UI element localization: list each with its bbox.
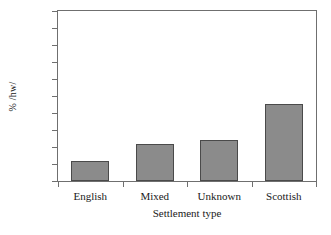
x-axis-title: Settlement type <box>57 207 317 219</box>
bar-scottish <box>265 104 303 181</box>
bar-slot <box>123 11 188 181</box>
x-tick-mark <box>252 182 253 187</box>
x-axis-label: Scottish <box>266 190 301 202</box>
x-tick-mark <box>316 182 317 187</box>
bar-slot <box>58 11 123 181</box>
bar-mixed <box>136 144 174 181</box>
bars-group <box>58 11 316 181</box>
x-axis-labels: EnglishMixedUnknownScottish <box>58 190 316 206</box>
bar-english <box>71 161 109 181</box>
bar-slot <box>187 11 252 181</box>
x-axis-label: Mixed <box>140 190 169 202</box>
x-tick-mark <box>123 182 124 187</box>
y-axis-title-text: % /hw/ <box>8 81 19 111</box>
x-tick-mark <box>187 182 188 187</box>
bar-slot <box>252 11 317 181</box>
bar-chart: % /hw/ 0102030405060708090100 EnglishMix… <box>0 0 331 235</box>
x-axis-label: Unknown <box>198 190 241 202</box>
x-tick-mark <box>58 182 59 187</box>
y-axis-title: % /hw/ <box>4 0 22 192</box>
bar-unknown <box>200 140 238 181</box>
x-axis-label: English <box>73 190 107 202</box>
